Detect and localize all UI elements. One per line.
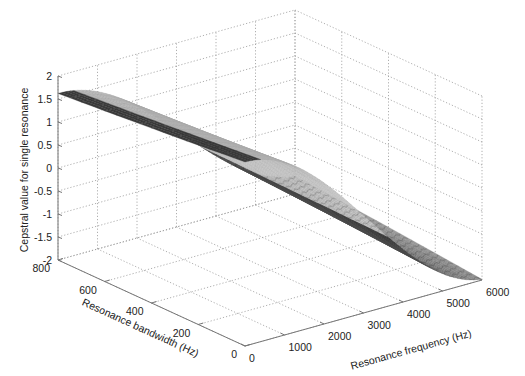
x-tick-label: 4000	[407, 308, 431, 320]
side-wall-gridline	[295, 56, 482, 142]
x-tick	[281, 333, 285, 335]
x-tick	[399, 300, 403, 302]
x-tick-label: 5000	[447, 297, 471, 309]
x-tick-label: 3000	[368, 319, 392, 331]
x-tick-label: 1000	[289, 341, 313, 353]
y-tick	[58, 259, 63, 261]
z-tick	[58, 99, 62, 101]
z-tick	[58, 145, 62, 147]
x-tick-label: 6000	[486, 286, 510, 298]
z-tick-label: -1	[43, 208, 52, 220]
surface	[58, 90, 482, 280]
z-tick	[58, 191, 62, 193]
z-axis-label: Cepstral value for single resonance	[18, 88, 30, 253]
x-tick-label: 2000	[328, 330, 352, 342]
x-tick	[439, 289, 443, 291]
y-tick	[152, 302, 157, 304]
z-tick-label: 0	[46, 162, 52, 174]
floor-gridline	[177, 227, 364, 313]
z-tick	[58, 168, 62, 170]
tick-labels: -2-1.5-1-0.500.511.520200400600800010002…	[32, 70, 509, 364]
y-tick	[105, 280, 110, 282]
z-tick	[58, 237, 62, 239]
z-tick-label: -1.5	[34, 231, 52, 243]
x-axis-label: Resonance frequency (Hz)	[349, 327, 473, 372]
z-tick	[58, 76, 62, 78]
z-tick-label: 1	[46, 116, 52, 128]
x-tick	[320, 322, 324, 324]
x-tick-label: 0	[249, 352, 255, 364]
z-tick-label: 2	[46, 70, 52, 82]
x-tick	[241, 344, 245, 346]
y-tick-label: 800	[32, 262, 50, 274]
z-tick-label: 0.5	[37, 139, 52, 151]
y-tick-label: 0	[231, 348, 237, 360]
floor-gridline	[137, 238, 324, 324]
z-tick	[58, 214, 62, 216]
y-tick-label: 600	[79, 284, 97, 296]
surface-plot: -2-1.5-1-0.500.511.520200400600800010002…	[0, 0, 525, 376]
y-tick	[198, 323, 203, 325]
z-tick-label: -0.5	[34, 185, 52, 197]
z-tick	[58, 122, 62, 124]
x-tick	[360, 311, 364, 313]
side-wall-gridline	[295, 33, 482, 119]
z-tick-label: 1.5	[37, 93, 52, 105]
